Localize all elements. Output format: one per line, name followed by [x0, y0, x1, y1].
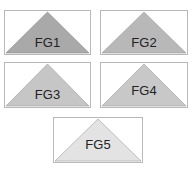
panel-label: FG4 — [101, 83, 187, 98]
panel-label: FG2 — [101, 35, 187, 50]
panel-label: FG1 — [5, 35, 90, 50]
panel-fg4: FG4 — [100, 62, 188, 108]
panel-fg2: FG2 — [100, 10, 188, 55]
panel-label: FG5 — [54, 137, 142, 152]
panel-fg5: FG5 — [53, 117, 143, 163]
panel-label: FG3 — [5, 87, 90, 102]
panel-fg3: FG3 — [4, 62, 91, 108]
panel-fg1: FG1 — [4, 10, 91, 55]
